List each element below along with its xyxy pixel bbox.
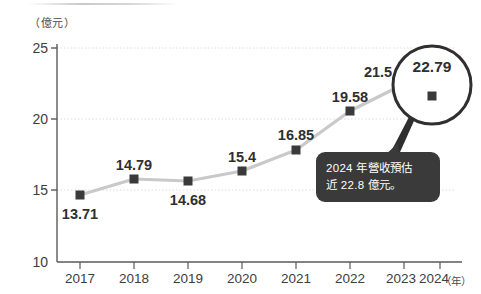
x-tick-label-2021: 2021 — [266, 271, 326, 286]
data-point-marker — [292, 146, 301, 155]
x-axis-unit-label: （年） — [441, 273, 471, 288]
data-point-marker — [346, 107, 355, 116]
callout-line-2: 近 22.8 億元。 — [326, 177, 431, 194]
callout-line-1: 2024 年營收預估 — [326, 160, 431, 177]
x-tick-label-2018: 2018 — [104, 271, 164, 286]
magnified-point-marker — [428, 92, 437, 101]
x-tick-label-2020: 2020 — [212, 271, 272, 286]
data-label-2021: 16.85 — [266, 127, 326, 143]
y-tick-label-15: 15 — [18, 182, 48, 198]
y-tick-label-20: 20 — [18, 111, 48, 127]
data-point-marker — [76, 191, 85, 200]
x-tick-label-2017: 2017 — [50, 271, 110, 286]
data-label-2020: 15.4 — [212, 149, 272, 165]
y-tick-label-10: 10 — [18, 254, 48, 270]
plot-svg — [0, 0, 481, 294]
y-tick-label-25: 25 — [18, 40, 48, 56]
data-point-marker — [238, 167, 247, 176]
data-point-marker — [184, 177, 193, 186]
data-label-2017: 13.71 — [50, 206, 110, 222]
data-label-2024: 22.79 — [397, 58, 467, 76]
data-label-2019: 14.68 — [158, 192, 218, 208]
forecast-callout: 2024 年營收預估 近 22.8 億元。 — [316, 152, 440, 202]
x-tick-label-2019: 2019 — [158, 271, 218, 286]
data-label-2022: 19.58 — [320, 89, 380, 105]
data-point-marker — [130, 175, 139, 184]
y-tick-marks — [51, 48, 57, 190]
data-label-2018: 14.79 — [104, 157, 164, 173]
x-tick-marks — [80, 262, 440, 269]
chart-container: （億元） — [0, 0, 481, 294]
